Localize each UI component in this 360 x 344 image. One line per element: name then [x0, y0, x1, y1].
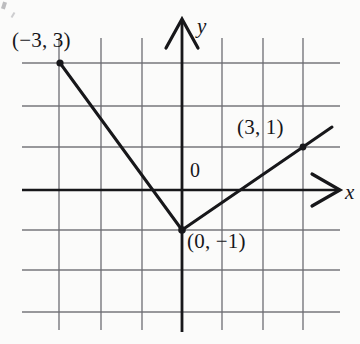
point-label-0-neg1: (0, −1) [187, 231, 246, 252]
point-label-neg3-3: (−3, 3) [12, 30, 71, 51]
y-axis-label: y [197, 16, 207, 37]
point-marker-3-1 [300, 144, 307, 151]
graph-right-branch [182, 127, 332, 230]
graph-figure: (−3, 3) (3, 1) (0, −1) 0 x y [0, 0, 360, 344]
x-axis-label: x [345, 182, 355, 203]
point-marker-0-neg1 [178, 226, 186, 234]
point-label-3-1: (3, 1) [237, 117, 284, 138]
point-marker-neg3-3 [56, 59, 63, 66]
origin-label: 0 [190, 160, 200, 180]
